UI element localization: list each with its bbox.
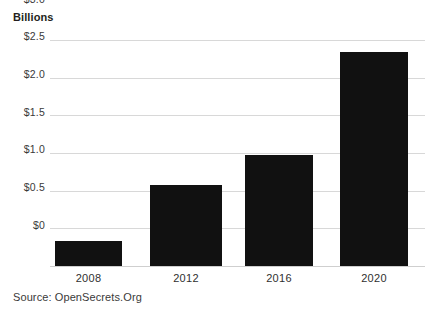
y-axis-tick-label: $3.0 [0,0,45,5]
y-axis-unit-label: Billions [13,11,54,23]
gridline-3-0 [50,40,425,41]
source-note: Source: OpenSecrets.Org [13,291,142,303]
y-axis-tick-label: $1.0 [0,143,45,155]
y-axis-tick-label: $2.0 [0,68,45,80]
x-axis-tick-label: 2016 [225,272,333,284]
bar-2008 [55,241,122,266]
x-axis-tick-label: 2012 [132,272,240,284]
y-axis-tick-label: $0.5 [0,181,45,193]
bar-chart-figure: Billions $3.0 $2.5 $2.0 $1.5 $1.0 $0.5 $… [0,0,441,318]
x-axis-tick-label: 2020 [320,272,428,284]
y-axis-tick-label: $1.5 [0,106,45,118]
bar-2016 [245,155,313,266]
y-axis-tick-label: $0 [0,219,45,231]
plot-area [50,40,425,266]
x-axis-tick-label: 2008 [35,272,142,284]
axis-baseline [50,266,425,267]
y-axis-tick-label: $2.5 [0,30,45,42]
bar-2020 [340,52,408,266]
bar-2012 [150,185,222,266]
